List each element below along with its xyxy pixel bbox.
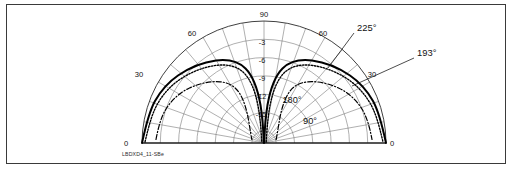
angular-label-60-left: 60: [188, 29, 196, 38]
callout-193-leader: [352, 58, 414, 86]
callout-193-label: 193°: [417, 47, 437, 58]
radial-label-12: -12: [256, 92, 266, 101]
angular-label-30-right: 30: [368, 70, 376, 79]
callout-225: 225°: [328, 22, 377, 68]
radial-label-6: -6: [259, 56, 265, 65]
callout-225-label: 225°: [357, 22, 377, 33]
inline-label-90: 90°: [303, 116, 317, 126]
figure-caption: LBDXD4_11-SBe: [122, 151, 164, 157]
callout-225-leader: [328, 33, 354, 68]
angular-label-60-right: 60: [319, 29, 327, 38]
radial-label-3: -3: [259, 38, 265, 47]
callout-193: 193°: [352, 47, 437, 86]
angular-label-90: 90: [260, 10, 268, 19]
polar-chart: 0 30 60 90 60 30 0 -3 -6 -9 -12 -15 225°…: [0, 0, 513, 169]
angular-label-30-left: 30: [135, 70, 143, 79]
angular-label-0-left: 0: [124, 139, 128, 148]
angular-label-0-right: 0: [390, 139, 394, 148]
radial-label-15: -15: [256, 110, 266, 119]
radial-label-9: -9: [259, 74, 265, 83]
inline-label-180: 180°: [282, 95, 301, 105]
figure-root: 0 30 60 90 60 30 0 -3 -6 -9 -12 -15 225°…: [0, 0, 513, 169]
